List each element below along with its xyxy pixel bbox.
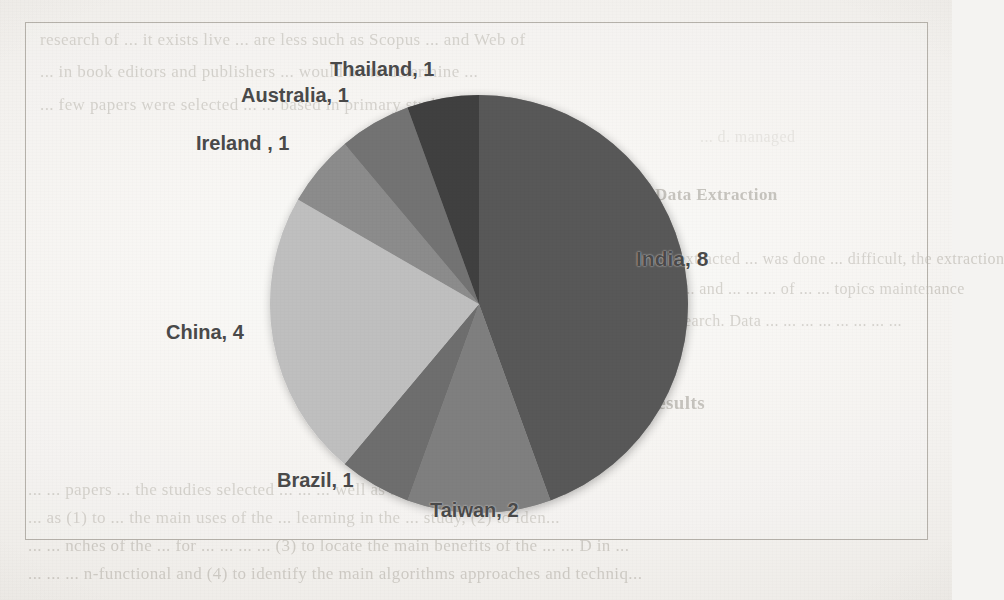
pie-label-australia: Australia, 1	[241, 84, 349, 107]
pie-chart-svg	[26, 23, 929, 541]
pie-label-china: China, 4	[166, 321, 244, 344]
pie-chart[interactable]	[26, 23, 927, 539]
pie-label-brazil: Brazil, 1	[277, 469, 354, 492]
pie-label-taiwan: Taiwan, 2	[430, 499, 519, 522]
pie-label-india: India, 8	[636, 247, 708, 271]
pie-label-thailand: Thailand, 1	[330, 58, 434, 81]
pie-label-ireland: Ireland , 1	[196, 132, 289, 155]
chart-frame	[25, 22, 928, 540]
